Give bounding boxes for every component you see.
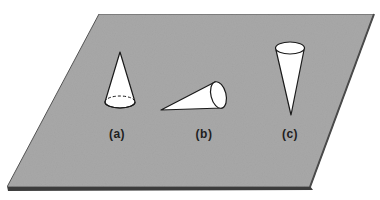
label-cone-a: (a)	[109, 127, 125, 141]
cones-figure: (a) (b) (c)	[0, 0, 380, 200]
label-cone-b: (b)	[196, 127, 213, 141]
label-cone-c: (c)	[282, 127, 298, 141]
figure-canvas	[0, 0, 380, 200]
